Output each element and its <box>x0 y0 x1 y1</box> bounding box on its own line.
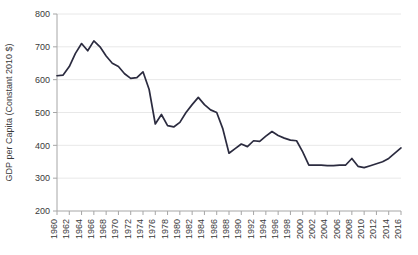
x-tick-label: 1978 <box>160 219 170 239</box>
x-tick-label: 2014 <box>381 219 391 239</box>
x-tick-label: 1976 <box>147 219 157 239</box>
x-tick-label: 1992 <box>246 219 256 239</box>
y-tick-label: 200 <box>35 206 50 216</box>
x-tick-label: 1984 <box>196 219 206 239</box>
x-tick-label: 1972 <box>123 219 133 239</box>
x-tick-label: 1980 <box>172 219 182 239</box>
x-tick-label: 2008 <box>344 219 354 239</box>
x-tick-label: 1982 <box>184 219 194 239</box>
y-axis-title: GDP per Capita (Constant 2010 $) <box>4 44 14 182</box>
y-axis-title-text: GDP per Capita (Constant 2010 $) <box>4 44 14 182</box>
x-tick-labels: 1960196219641966196819701972197419761978… <box>49 219 403 239</box>
x-tick-label: 2006 <box>332 219 342 239</box>
x-tick-marks <box>57 211 401 215</box>
y-tick-label: 800 <box>35 9 50 19</box>
series-line <box>57 41 401 168</box>
x-tick-label: 1994 <box>258 219 268 239</box>
x-tick-label: 2016 <box>393 219 403 239</box>
x-tick-label: 1990 <box>233 219 243 239</box>
y-tick-label: 300 <box>35 173 50 183</box>
chart-container: 200300400500600700800 196019621964196619… <box>0 0 418 255</box>
x-tick-label: 1966 <box>86 219 96 239</box>
y-tick-label: 600 <box>35 75 50 85</box>
x-tick-label: 1986 <box>209 219 219 239</box>
x-tick-label: 2012 <box>368 219 378 239</box>
x-tick-label: 2000 <box>295 219 305 239</box>
x-tick-label: 1974 <box>135 219 145 239</box>
x-tick-label: 2004 <box>319 219 329 239</box>
x-tick-label: 1964 <box>74 219 84 239</box>
x-tick-label: 2002 <box>307 219 317 239</box>
y-tick-label: 400 <box>35 141 50 151</box>
gdp-per-capita-line-chart: 200300400500600700800 196019621964196619… <box>0 0 418 255</box>
x-tick-label: 1960 <box>49 219 59 239</box>
x-tick-label: 2010 <box>356 219 366 239</box>
y-tick-labels: 200300400500600700800 <box>35 9 50 216</box>
x-tick-label: 1998 <box>282 219 292 239</box>
x-tick-label: 1988 <box>221 219 231 239</box>
x-tick-label: 1968 <box>98 219 108 239</box>
data-series-group <box>57 41 401 168</box>
y-tick-marks <box>53 14 57 211</box>
x-tick-label: 1962 <box>61 219 71 239</box>
x-tick-label: 1970 <box>110 219 120 239</box>
y-tick-label: 700 <box>35 42 50 52</box>
x-tick-label: 1996 <box>270 219 280 239</box>
y-tick-label: 500 <box>35 108 50 118</box>
